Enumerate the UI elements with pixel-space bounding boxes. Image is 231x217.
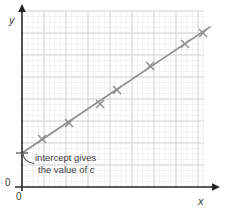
graph-canvas xyxy=(0,0,231,217)
origin-zero-x-label: 0 xyxy=(16,192,22,202)
annotation-line1: intercept gives xyxy=(35,152,96,163)
y-axis-arrowhead xyxy=(18,4,26,12)
data-point-cross xyxy=(113,86,121,94)
annotation-line2: the value of c xyxy=(38,164,96,176)
origin-zero-y-label: 0 xyxy=(5,178,11,188)
y-axis-label: y xyxy=(9,15,15,26)
annotation-leader-line xyxy=(23,155,34,164)
x-axis-arrowhead xyxy=(212,183,220,191)
annotation-line2-text: the value of xyxy=(38,164,90,175)
scatter-graph-figure: y x 0 0 intercept gives the value of c xyxy=(0,0,231,217)
annotation-c-symbol: c xyxy=(90,164,95,175)
data-point-cross xyxy=(38,135,46,143)
x-axis-label: x xyxy=(198,196,204,207)
intercept-annotation: intercept gives the value of c xyxy=(35,152,96,175)
